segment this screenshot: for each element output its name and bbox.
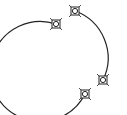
handle-top-left-icon[interactable] [50,18,62,30]
handle-right-icon[interactable] [97,74,109,86]
right-arc[interactable] [75,11,108,80]
left-arc[interactable] [0,21,85,115]
handle-top-icon[interactable] [69,5,81,17]
handle-group [50,5,109,100]
diagram-canvas [0,0,127,115]
handle-bottom-icon[interactable] [79,88,91,100]
